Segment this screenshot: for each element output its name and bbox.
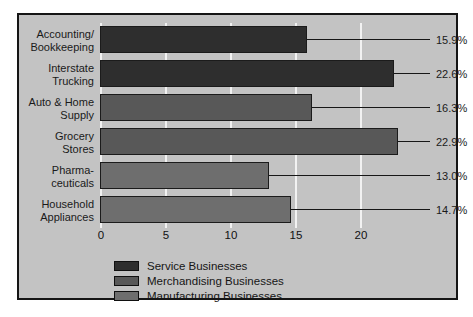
x-tick-mark	[165, 223, 167, 228]
plot-area: Accounting/ Bookkeeping15.9%Interstate T…	[100, 23, 412, 228]
x-tick-label: 10	[225, 229, 238, 241]
chart-frame: Accounting/ Bookkeeping15.9%Interstate T…	[17, 13, 458, 300]
x-tick-mark	[100, 223, 102, 228]
leader-line	[398, 141, 430, 142]
leader-line	[312, 107, 430, 108]
x-tick-label: 0	[98, 229, 104, 241]
category-label: Household Appliances	[40, 198, 94, 223]
leader-line	[291, 209, 430, 210]
category-label: Auto & Home Supply	[29, 96, 94, 121]
bar	[100, 162, 269, 189]
x-tick-label: 20	[355, 229, 368, 241]
bar	[100, 128, 398, 155]
legend-label: Merchandising Businesses	[147, 275, 284, 287]
x-tick-mark	[295, 223, 297, 228]
legend-swatch-merchandising	[114, 276, 139, 286]
leader-line	[394, 73, 430, 74]
bar-row: Pharma- ceuticals13.0%	[100, 159, 412, 193]
x-tick-label: 15	[290, 229, 303, 241]
bar-row: Household Appliances14.7%	[100, 193, 412, 227]
bar	[100, 196, 291, 223]
x-tick-label: 5	[163, 229, 169, 241]
bar-value-label: 16.3%	[436, 102, 467, 114]
legend-item: Merchandising Businesses	[114, 273, 374, 288]
legend-item: Service Businesses	[114, 258, 374, 273]
legend-label: Manufacturing Businesses	[147, 290, 282, 302]
x-axis: 05101520	[100, 228, 412, 248]
legend-label: Service Businesses	[147, 260, 247, 272]
x-tick-mark	[360, 223, 362, 228]
category-label: Interstate Trucking	[48, 62, 94, 87]
bar-value-label: 13.0%	[436, 170, 467, 182]
category-label: Pharma- ceuticals	[51, 164, 94, 189]
bar-row: Grocery Stores22.9%	[100, 125, 412, 159]
bar-value-label: 22.9%	[436, 136, 467, 148]
category-label: Grocery Stores	[55, 130, 94, 155]
bar	[100, 94, 312, 121]
bar-value-label: 15.9%	[436, 34, 467, 46]
category-label: Accounting/ Bookkeeping	[30, 28, 94, 53]
legend-swatch-service	[114, 261, 139, 271]
leader-line	[307, 39, 430, 40]
bar	[100, 60, 394, 87]
chart-legend: Service BusinessesMerchandising Business…	[114, 258, 374, 303]
leader-line	[269, 175, 430, 176]
legend-item: Manufacturing Businesses	[114, 288, 374, 303]
legend-swatch-manufacturing	[114, 291, 139, 301]
bar-row: Auto & Home Supply16.3%	[100, 91, 412, 125]
bar	[100, 26, 307, 53]
bar-value-label: 14.7%	[436, 204, 467, 216]
x-tick-mark	[230, 223, 232, 228]
bar-row: Accounting/ Bookkeeping15.9%	[100, 23, 412, 57]
bar-row: Interstate Trucking22.6%	[100, 57, 412, 91]
bar-value-label: 22.6%	[436, 68, 467, 80]
